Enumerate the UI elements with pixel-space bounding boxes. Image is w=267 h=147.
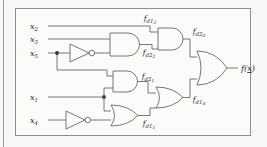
wire-fd20 xyxy=(183,39,197,57)
or-gate-mid-right xyxy=(156,87,183,108)
input-label-x4: x4 xyxy=(30,115,39,126)
and-gate-middle xyxy=(113,71,138,92)
and-gate-upper-body xyxy=(110,33,140,56)
and-gate-top-body xyxy=(158,28,183,50)
logic-circuit-diagram: x2 x3 x5 x1 x4 fd12 fd22 fd20 fd21 fd11 xyxy=(0,0,267,147)
input-label-x2: x2 xyxy=(30,21,39,32)
or-gate-bottom xyxy=(111,105,138,126)
and-gate-middle-body xyxy=(113,71,138,92)
wire-notx5-to-and-middle xyxy=(107,70,113,76)
input-label-x3: x3 xyxy=(30,34,39,45)
not-gate-x4 xyxy=(66,111,91,129)
or-gate-final xyxy=(197,51,227,85)
signal-label-fd22: fd22 xyxy=(142,48,156,59)
svg-text:f(x): f(x) xyxy=(240,63,255,73)
or-gate-final-body xyxy=(197,51,227,85)
signal-label-fd11: fd11 xyxy=(142,119,156,130)
wire-x5-branch-down xyxy=(57,53,107,70)
signal-label-fd10: fd10 xyxy=(192,95,206,106)
not-gate-x5-triangle xyxy=(70,44,89,62)
figure-root: x2 x3 x5 x1 x4 fd12 fd22 fd20 fd21 fd11 xyxy=(0,0,267,147)
wire-x1-to-and-middle xyxy=(104,88,113,97)
signal-label-fd12: fd12 xyxy=(143,14,157,25)
output-label-fx: f(x) xyxy=(240,63,255,73)
junction-x5-dot xyxy=(55,51,59,55)
wire-fd11 xyxy=(138,108,156,116)
signal-label-fd20: fd20 xyxy=(192,27,206,38)
not-gate-x5 xyxy=(70,44,95,62)
not-gate-x4-triangle xyxy=(66,111,85,129)
input-label-x5: x5 xyxy=(30,48,39,59)
output-suffix: ) xyxy=(251,63,255,73)
and-gate-upper xyxy=(110,33,140,56)
input-label-x1: x1 xyxy=(30,92,38,103)
or-gate-mid-right-body xyxy=(156,87,183,108)
wire-x2 xyxy=(48,26,158,32)
or-gate-bottom-body xyxy=(111,105,138,126)
not-gate-x4-bubble xyxy=(85,117,91,123)
not-gate-x5-bubble xyxy=(89,50,95,56)
and-gate-top xyxy=(158,28,183,50)
wire-x1-to-or-bottom xyxy=(104,97,111,111)
